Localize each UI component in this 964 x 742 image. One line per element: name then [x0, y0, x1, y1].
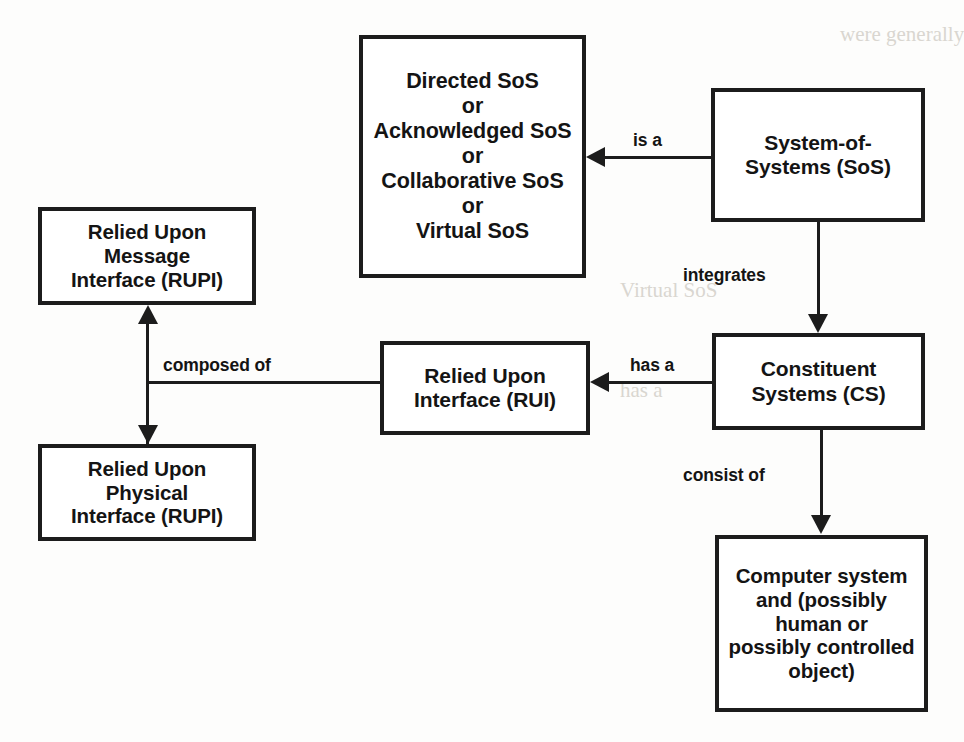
edge-consist-of-arrowhead — [811, 515, 831, 534]
node-relied-upon-physical-interface[interactable]: Relied Upon Physical Interface (RUPI) — [38, 444, 256, 541]
edge-composed-of-down-arrowhead — [138, 425, 158, 444]
node-relied-upon-interface[interactable]: Relied Upon Interface (RUI) — [380, 341, 590, 435]
node-relied-upon-interface-label: Relied Upon Interface (RUI) — [410, 364, 560, 413]
node-computer-system[interactable]: Computer system and (possibly human or p… — [715, 535, 928, 712]
edge-composed-of-line — [146, 381, 382, 384]
node-constituent-systems-label: Constituent Systems (CS) — [747, 357, 889, 406]
edge-integrates-arrowhead — [808, 314, 828, 333]
edge-is-a-line — [605, 156, 713, 159]
edge-label-integrates: integrates — [683, 265, 766, 286]
node-computer-system-label: Computer system and (possibly human or p… — [724, 564, 918, 683]
diagram-canvas: were generally Virtual SoS has a is a in… — [0, 0, 964, 742]
node-sos-types[interactable]: Directed SoS or Acknowledged SoS or Coll… — [359, 35, 586, 278]
edge-consist-of-line — [820, 430, 823, 516]
edge-composed-of-upper-stem — [146, 324, 149, 382]
node-constituent-systems[interactable]: Constituent Systems (CS) — [712, 333, 925, 430]
edge-is-a-arrowhead — [586, 147, 605, 167]
edge-label-is-a: is a — [633, 130, 662, 151]
node-relied-upon-message-interface-label: Relied Upon Message Interface (RUPI) — [67, 220, 227, 291]
node-relied-upon-physical-interface-label: Relied Upon Physical Interface (RUPI) — [67, 457, 227, 528]
node-relied-upon-message-interface[interactable]: Relied Upon Message Interface (RUPI) — [38, 207, 256, 305]
edge-has-a-arrowhead — [590, 372, 609, 392]
node-system-of-systems-label: System-of- Systems (SoS) — [741, 131, 895, 180]
edge-label-has-a: has a — [630, 355, 674, 376]
node-system-of-systems[interactable]: System-of- Systems (SoS) — [711, 88, 925, 222]
node-sos-types-label: Directed SoS or Acknowledged SoS or Coll… — [370, 69, 576, 244]
edge-has-a-line — [609, 381, 715, 384]
edge-label-composed-of: composed of — [163, 355, 271, 376]
ghost-text-1: were generally — [840, 22, 964, 47]
edge-composed-of-up-arrowhead — [138, 305, 158, 324]
edge-integrates-line — [817, 222, 820, 315]
edge-label-consist-of: consist of — [683, 465, 765, 486]
